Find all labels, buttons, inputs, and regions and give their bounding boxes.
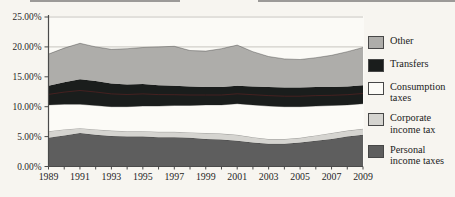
x-tick-label: 1995 — [133, 171, 153, 182]
x-tick-label: 1999 — [196, 171, 216, 182]
legend-item-other: Other — [368, 35, 454, 49]
legend-item-transfers: Transfers — [368, 58, 454, 72]
x-tick-label: 1993 — [102, 171, 122, 182]
legend-label: Other — [390, 35, 452, 49]
x-tick-label: 2005 — [290, 171, 310, 182]
legend-swatch — [368, 36, 384, 49]
x-tick-label: 1997 — [164, 171, 184, 182]
legend-item-consumption-taxes: Consumption taxes — [368, 81, 454, 103]
x-tick-label: 1991 — [70, 171, 90, 182]
area-other — [49, 43, 364, 87]
tax-revenue-figure: 0.00%5.00%10.00%15.00%20.00%25.00%198919… — [0, 0, 455, 197]
legend-label: Corporate income tax — [390, 112, 452, 134]
y-tick-label: 20.00% — [13, 42, 42, 52]
x-tick-label: 2003 — [259, 171, 279, 182]
y-tick-label: 5.00% — [17, 132, 41, 142]
legend-swatch — [368, 59, 384, 72]
y-tick-label: 25.00% — [13, 12, 42, 22]
legend-item-corporate-income-tax: Corporate income tax — [368, 112, 454, 134]
legend-label: Transfers — [390, 58, 452, 72]
x-axis-labels: 1989199119931995199719992001200320052007… — [39, 171, 373, 182]
x-tick-label: 2001 — [227, 171, 247, 182]
y-tick-label: 10.00% — [13, 102, 42, 112]
legend-swatch — [368, 145, 384, 158]
legend-item-personal-income-taxes: Personal income taxes — [368, 144, 454, 166]
x-tick-label: 1989 — [39, 171, 59, 182]
x-tick-label: 2007 — [322, 171, 342, 182]
y-tick-label: 15.00% — [13, 72, 42, 82]
legend-swatch — [368, 82, 384, 95]
legend: OtherTransfersConsumption taxesCorporate… — [368, 35, 454, 175]
y-axis-labels: 0.00%5.00%10.00%15.00%20.00%25.00% — [13, 12, 42, 172]
legend-swatch — [368, 113, 384, 126]
legend-label: Consumption taxes — [390, 81, 452, 103]
legend-label: Personal income taxes — [390, 144, 452, 166]
